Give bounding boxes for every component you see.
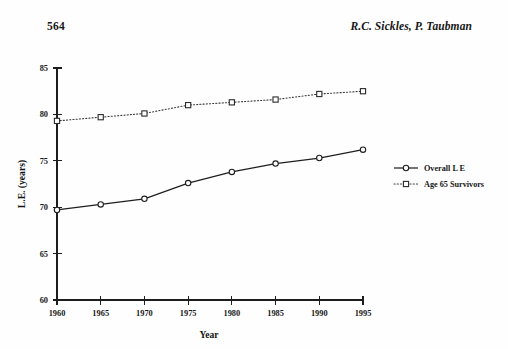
data-point-marker <box>317 91 322 96</box>
data-point-marker <box>98 115 103 120</box>
y-axis-tick-label: 80 <box>40 110 48 119</box>
chart-series-group <box>54 89 365 213</box>
legend-label-1: Age 65 Survivors <box>424 180 484 189</box>
y-axis-tick-label: 65 <box>40 250 48 259</box>
data-point-marker <box>360 147 365 152</box>
data-point-marker <box>98 202 103 207</box>
data-point-marker <box>54 207 59 212</box>
y-axis-title: L.E. (years) <box>16 160 28 208</box>
data-point-marker <box>142 196 147 201</box>
x-axis-tick-label: 1995 <box>355 309 372 318</box>
x-axis-tick-label: 1970 <box>136 309 153 318</box>
y-axis: 606570758085 <box>40 64 62 305</box>
line-chart-figure: 606570758085 196019651970197519801985199… <box>0 0 508 349</box>
data-point-marker <box>273 97 278 102</box>
data-point-marker <box>185 180 190 185</box>
data-point-marker <box>54 118 59 123</box>
y-axis-tick-label: 85 <box>40 64 48 73</box>
x-axis-tick-label: 1980 <box>223 309 240 318</box>
data-point-marker <box>229 100 234 105</box>
x-axis-tick-label: 1990 <box>311 309 328 318</box>
data-point-marker <box>273 161 278 166</box>
x-axis-tick-label: 1975 <box>180 309 197 318</box>
x-axis-tick-label: 1960 <box>49 309 66 318</box>
legend-marker-1 <box>403 181 408 186</box>
x-axis-tick-label: 1985 <box>267 309 284 318</box>
data-point-marker <box>229 169 234 174</box>
page-canvas: 564 R.C. Sickles, P. Taubman 60657075808… <box>0 0 508 349</box>
legend-label-0: Overall L E <box>424 164 465 173</box>
data-point-marker <box>360 89 365 94</box>
x-axis-tick-label: 1965 <box>92 309 109 318</box>
data-point-marker <box>317 155 322 160</box>
data-point-marker <box>186 103 191 108</box>
y-axis-tick-label: 75 <box>40 157 48 166</box>
y-axis-tick-label: 60 <box>40 296 48 305</box>
legend-marker-0 <box>403 165 408 170</box>
x-axis-title: Year <box>199 329 219 340</box>
chart-legend: Overall L EAge 65 Survivors <box>394 164 484 189</box>
x-axis: 19601965197019751980198519901995 <box>49 296 372 319</box>
y-axis-tick-label: 70 <box>40 203 48 212</box>
chart-svg: 606570758085 196019651970197519801985199… <box>0 0 508 349</box>
data-point-marker <box>142 111 147 116</box>
